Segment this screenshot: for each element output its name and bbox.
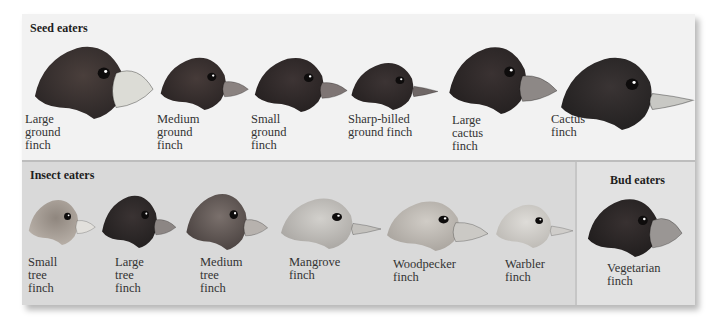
small-ground-finch-illustration bbox=[251, 52, 351, 112]
bud-eaters-title: Bud eaters bbox=[610, 173, 665, 188]
large-cactus-finch-illustration bbox=[445, 40, 557, 114]
large-cactus-finch-label: Large cactus finch bbox=[452, 114, 483, 153]
sharp-billed-ground-finch-illustration bbox=[348, 58, 438, 110]
finch-head-icon bbox=[383, 196, 488, 251]
medium-tree-finch-illustration bbox=[183, 188, 271, 250]
seed-eaters-title: Seed eaters bbox=[30, 21, 88, 36]
warbler-finch-illustration bbox=[493, 200, 573, 248]
sharp-billed-ground-finch-label: Sharp-billed ground finch bbox=[348, 113, 412, 139]
woodpecker-finch-label: Woodpecker finch bbox=[393, 258, 456, 284]
cactus-finch-label: Cactus finch bbox=[551, 113, 585, 139]
medium-ground-finch-label: Medium ground finch bbox=[157, 113, 199, 152]
small-tree-finch-label: Small tree finch bbox=[28, 256, 57, 295]
large-ground-finch-illustration bbox=[30, 39, 158, 119]
vegetarian-finch-label: Vegetarian finch bbox=[607, 262, 660, 288]
finch-head-icon bbox=[183, 188, 271, 250]
woodpecker-finch-illustration bbox=[383, 196, 488, 251]
large-tree-finch-illustration bbox=[99, 190, 179, 248]
medium-ground-finch-illustration bbox=[157, 52, 252, 110]
finch-head-icon bbox=[251, 52, 351, 112]
vegetarian-finch-illustration bbox=[584, 193, 686, 257]
finch-head-icon bbox=[348, 58, 438, 110]
warbler-finch-label: Warbler finch bbox=[505, 258, 545, 284]
finch-head-icon bbox=[584, 193, 686, 257]
small-tree-finch-illustration bbox=[26, 195, 98, 245]
finch-head-icon bbox=[277, 193, 381, 249]
small-ground-finch-label: Small ground finch bbox=[251, 113, 286, 152]
finch-head-icon bbox=[493, 200, 573, 248]
medium-tree-finch-label: Medium tree finch bbox=[200, 256, 242, 295]
large-tree-finch-label: Large tree finch bbox=[115, 256, 144, 295]
large-ground-finch-label: Large ground finch bbox=[25, 113, 60, 152]
finch-head-icon bbox=[99, 190, 179, 248]
insect-eaters-title: Insect eaters bbox=[30, 168, 94, 183]
mangrove-finch-label: Mangrove finch bbox=[289, 256, 340, 282]
finch-head-icon bbox=[445, 40, 557, 114]
finch-head-icon bbox=[30, 39, 158, 119]
finch-head-icon bbox=[157, 52, 252, 110]
mangrove-finch-illustration bbox=[277, 193, 381, 249]
finch-head-icon bbox=[26, 195, 98, 245]
